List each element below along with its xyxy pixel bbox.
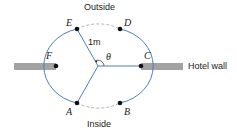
hotel-wall-label: Hotel wall: [188, 62, 227, 71]
door-panel-e: [77, 29, 98, 66]
point-label-a: A: [66, 107, 72, 117]
point-b: [118, 101, 123, 106]
point-c: [139, 64, 144, 69]
point-label-d: D: [124, 18, 131, 28]
point-label-f: F: [46, 51, 52, 61]
point-label-b: B: [124, 107, 130, 117]
door-panel-a: [77, 66, 98, 103]
radius-label: 1m: [88, 38, 101, 47]
point-label-c: C: [144, 51, 151, 61]
outside-label: Outside: [84, 3, 115, 12]
hotel-wall-right: [141, 63, 183, 70]
point-f: [54, 64, 59, 69]
inside-label: Inside: [87, 120, 111, 129]
point-label-e: E: [66, 18, 72, 28]
bottom-dashed-arc: [77, 103, 120, 108]
angle-label: θ: [106, 52, 111, 62]
point-d: [118, 27, 123, 32]
hotel-wall-left: [14, 63, 56, 70]
point-a: [75, 101, 80, 106]
point-e: [75, 27, 80, 32]
top-dashed-arc: [77, 24, 120, 29]
